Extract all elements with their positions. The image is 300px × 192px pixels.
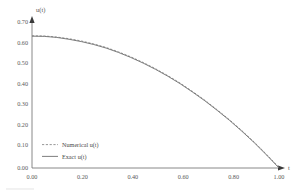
y-tick-label: 0.30 xyxy=(17,100,28,107)
x-tick-label: 0.60 xyxy=(178,173,189,180)
x-axis-title: t xyxy=(288,164,290,171)
legend-label-exact: Exact u(t) xyxy=(62,153,87,161)
y-tick-label: 0.20 xyxy=(17,121,28,128)
x-tick-label: 0.40 xyxy=(127,173,138,180)
x-tick-label: 0.20 xyxy=(77,173,88,180)
x-axis-arrow-icon xyxy=(278,165,285,170)
y-axis-title: u(t) xyxy=(36,6,46,14)
y-tick-label: 0.10 xyxy=(17,141,28,148)
x-axis xyxy=(32,165,285,170)
y-tick-label: 0.50 xyxy=(17,59,28,66)
x-tick-labels: 0.00 0.20 0.40 0.60 0.80 1.00 xyxy=(27,173,285,180)
y-tick-labels: 0.70 0.60 0.50 0.40 0.30 0.20 0.10 0.00 xyxy=(17,18,28,171)
y-axis-arrow-icon xyxy=(29,16,34,23)
x-tick-label: 1.00 xyxy=(274,173,285,180)
y-tick-label: 0.40 xyxy=(17,80,28,87)
legend-label-numerical: Numerical u(t) xyxy=(62,141,99,149)
chart-legend: Numerical u(t) Exact u(t) xyxy=(42,141,99,161)
chart-figure: u(t) t 0.70 0.60 0.50 0.40 0.30 0.20 0.1… xyxy=(0,0,300,192)
y-tick-label: 0.70 xyxy=(17,18,28,25)
x-tick-label: 0.80 xyxy=(228,173,239,180)
line-chart: u(t) t 0.70 0.60 0.50 0.40 0.30 0.20 0.1… xyxy=(0,0,300,192)
x-tick-label: 0.00 xyxy=(27,173,38,180)
y-axis xyxy=(29,16,34,168)
series-exact-line xyxy=(32,36,279,168)
y-tick-label: 0.60 xyxy=(17,39,28,46)
y-tick-label: 0.00 xyxy=(17,164,28,171)
